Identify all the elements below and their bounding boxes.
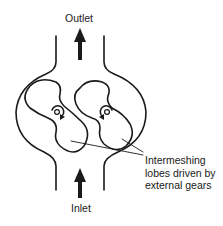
lobe-pump-diagram	[0, 0, 223, 226]
casing-right-wall	[104, 36, 146, 190]
shaft-center-right	[105, 110, 110, 115]
outlet-label: Outlet	[65, 12, 93, 24]
outlet-arrow-icon	[74, 28, 86, 60]
casing-left-wall	[16, 36, 56, 190]
inlet-arrow-icon	[74, 168, 86, 198]
leader-line-right	[122, 139, 143, 152]
lobes-callout-label: Intermeshing lobes driven by external ge…	[145, 154, 216, 192]
shaft-center-left	[55, 110, 60, 115]
inlet-label: Inlet	[71, 202, 91, 214]
